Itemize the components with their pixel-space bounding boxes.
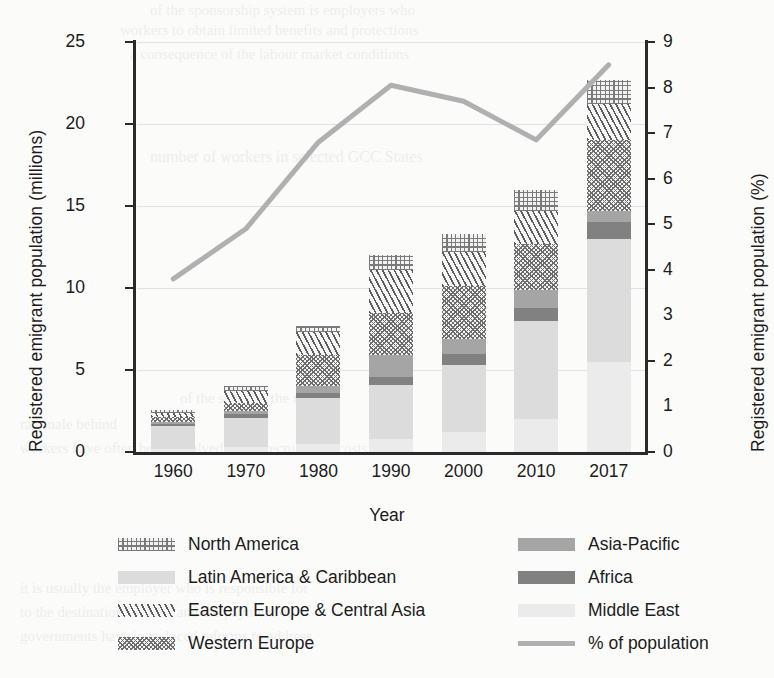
y-tick-label-right-3: 3 (663, 306, 703, 324)
legend-label: Middle East (588, 600, 679, 621)
y-axis-left-spine (133, 40, 136, 454)
y-tick-label-right-7: 7 (663, 124, 703, 142)
y-tick-right-9 (646, 41, 655, 43)
y-tick-label-right-0: 0 (663, 443, 703, 461)
legend-column-left: North AmericaLatin America & CaribbeanEa… (118, 528, 425, 660)
legend-item-africa[interactable]: Africa (518, 561, 709, 594)
legend-item-eastern-europe-central-asia[interactable]: Eastern Europe & Central Asia (118, 594, 425, 627)
dotted-mesh-swatch (118, 538, 175, 551)
percent-of-population-line (137, 42, 645, 452)
x-tick-label-1960: 1960 (133, 461, 213, 482)
y-tick-label-left-20: 20 (45, 115, 85, 133)
y-tick-label-left-0: 0 (45, 443, 85, 461)
y-tick-label-left-15: 15 (45, 197, 85, 215)
medium-gray-swatch (518, 538, 575, 551)
light-gray-swatch (118, 571, 175, 584)
x-axis-title: Year (0, 505, 774, 526)
y-tick-left-10 (125, 287, 134, 289)
x-tick-label-1990: 1990 (351, 461, 431, 482)
y-tick-label-right-8: 8 (663, 79, 703, 97)
legend-label: Africa (588, 567, 633, 588)
y-axis-title-right: Registered emigrant population (%) (748, 173, 769, 452)
fine-checkered-swatch (118, 637, 175, 650)
y-tick-label-left-25: 25 (45, 33, 85, 51)
y-axis-title-left: Registered emigrant population (millions… (26, 130, 47, 452)
y-tick-left-0 (125, 451, 134, 453)
legend-label: Asia-Pacific (588, 534, 679, 555)
y-tick-right-7 (646, 132, 655, 134)
legend-label: Latin America & Caribbean (188, 567, 396, 588)
y-tick-label-right-1: 1 (663, 397, 703, 415)
y-tick-left-25 (125, 41, 134, 43)
legend-item-of-population[interactable]: % of population (518, 627, 709, 660)
y-tick-right-6 (646, 178, 655, 180)
y-tick-label-left-5: 5 (45, 361, 85, 379)
x-tick-label-1980: 1980 (278, 461, 358, 482)
legend-label: Western Europe (188, 633, 314, 654)
dark-gray-swatch (518, 571, 575, 584)
x-tick-label-1970: 1970 (206, 461, 286, 482)
y-tick-right-8 (646, 87, 655, 89)
y-tick-right-5 (646, 223, 655, 225)
x-tick-label-2010: 2010 (496, 461, 576, 482)
y-tick-left-15 (125, 205, 134, 207)
y-tick-label-right-4: 4 (663, 261, 703, 279)
legend-item-north-america[interactable]: North America (118, 528, 425, 561)
y-tick-left-5 (125, 369, 134, 371)
very-light-gray-swatch (518, 604, 575, 617)
legend-item-latin-america-caribbean[interactable]: Latin America & Caribbean (118, 561, 425, 594)
legend-item-western-europe[interactable]: Western Europe (118, 627, 425, 660)
y-axis-right-spine (645, 40, 648, 454)
y-tick-left-20 (125, 123, 134, 125)
y-tick-right-4 (646, 269, 655, 271)
y-tick-label-right-5: 5 (663, 215, 703, 233)
legend-item-asia-pacific[interactable]: Asia-Pacific (518, 528, 709, 561)
y-tick-label-right-6: 6 (663, 170, 703, 188)
diagonal-hatch-swatch (118, 604, 175, 617)
legend-item-middle-east[interactable]: Middle East (518, 594, 709, 627)
y-tick-label-right-9: 9 (663, 33, 703, 51)
x-tick-label-2000: 2000 (424, 461, 504, 482)
line-swatch (518, 641, 575, 646)
emigrant-population-chart: Registered emigrant population (millions… (0, 0, 774, 678)
legend-label: North America (188, 534, 299, 555)
y-tick-right-2 (646, 360, 655, 362)
y-tick-right-0 (646, 451, 655, 453)
x-tick-label-2017: 2017 (569, 461, 649, 482)
legend-column-right: Asia-PacificAfricaMiddle East% of popula… (518, 528, 709, 660)
legend-label: % of population (588, 633, 709, 654)
legend-label: Eastern Europe & Central Asia (188, 600, 425, 621)
y-tick-label-left-10: 10 (45, 279, 85, 297)
x-axis-spine (133, 452, 648, 455)
y-tick-label-right-2: 2 (663, 352, 703, 370)
